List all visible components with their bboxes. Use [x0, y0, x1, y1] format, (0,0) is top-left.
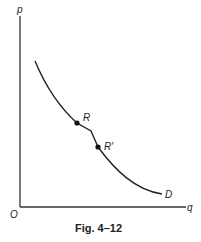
curve-label: D [165, 189, 172, 200]
x-axis-label: q [187, 202, 193, 213]
origin-label: O [10, 209, 18, 220]
demand-curve [35, 61, 162, 194]
point-r-prime [95, 144, 100, 149]
point-r-prime-label: R′ [104, 141, 114, 152]
point-r [74, 120, 79, 125]
point-r-label: R [83, 112, 90, 123]
demand-diagram: p q O R R′ D Fig. 4–12 [0, 0, 201, 242]
y-axis-label: p [16, 4, 23, 15]
figure-caption: Fig. 4–12 [75, 222, 122, 234]
